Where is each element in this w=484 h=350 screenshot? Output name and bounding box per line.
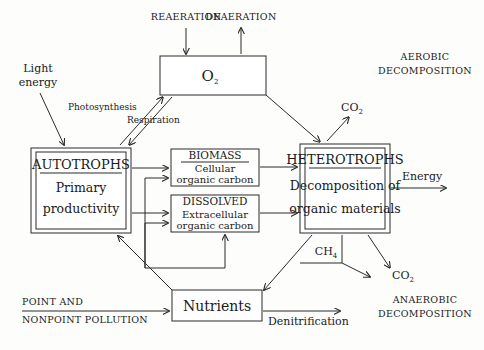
light-energy-arrow <box>40 93 64 145</box>
diagram-canvas: O2 REAERATION DEAERATION AUTOTROPHS Prim… <box>0 0 484 350</box>
biomass-line1: Cellular <box>195 163 236 174</box>
nutrients-label: Nutrients <box>183 298 251 314</box>
heterotrophs-title: HETEROTROPHS <box>286 152 404 167</box>
dissolved-title: DISSOLVED <box>183 195 248 207</box>
aerobic-zone-label-line2: DECOMPOSITION <box>378 65 472 76</box>
biomass-line2: organic carbon <box>177 174 254 185</box>
pollution-label-line1: POINT AND <box>22 296 83 307</box>
photosynthesis-label: Photosynthesis <box>68 102 137 112</box>
light-energy-label-line1: Light <box>23 62 53 75</box>
oxygen-to-heterotrophs-arrow <box>266 95 320 142</box>
aerobic-zone-label-line1: AEROBIC <box>400 51 450 62</box>
co2-top-arrow <box>327 117 349 141</box>
biomass-title: BIOMASS <box>188 149 241 161</box>
pollution-label-line2: NONPOINT POLLUTION <box>22 314 148 325</box>
dissolved-line1: Extracellular <box>182 209 248 220</box>
anaerobic-zone-label-line2: DECOMPOSITION <box>378 308 472 319</box>
co2-bottom-arrow <box>368 235 390 268</box>
respiration-label: Respiration <box>127 115 180 125</box>
light-energy-label-line2: energy <box>19 76 58 89</box>
ecosystem-diagram: O2 REAERATION DEAERATION AUTOTROPHS Prim… <box>0 0 484 350</box>
ch4-label: CH4 <box>315 245 338 260</box>
denitrification-label: Denitrification <box>268 315 349 328</box>
autotrophs-line2: productivity <box>43 201 121 216</box>
co2-top-label: CO2 <box>341 101 363 116</box>
ch4-arrow <box>342 263 370 277</box>
deaeration-label: DEAERATION <box>205 11 276 22</box>
anaerobic-zone-label-line1: ANAEROBIC <box>392 294 458 305</box>
autotrophs-line1: Primary <box>56 180 108 195</box>
dissolved-line2: organic carbon <box>177 220 254 231</box>
autotrophs-title: AUTOTROPHS <box>31 157 130 172</box>
heterotrophs-line1: Decomposition of <box>290 178 402 193</box>
co2-bottom-label: CO2 <box>392 269 414 284</box>
heterotrophs-line2: organic materials <box>289 201 401 216</box>
energy-label: Energy <box>402 170 443 183</box>
